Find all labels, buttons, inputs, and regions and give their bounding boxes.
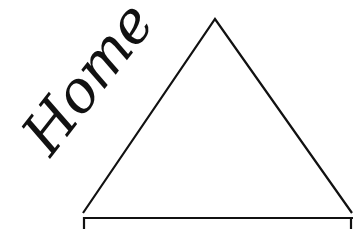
house-drawing: Home — [0, 0, 360, 229]
